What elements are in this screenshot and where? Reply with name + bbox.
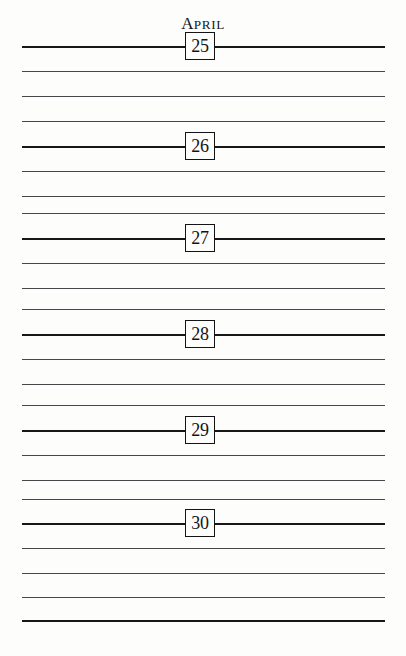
- ruled-line: [22, 213, 385, 214]
- ruled-line: [22, 499, 385, 500]
- date-box-label: 27: [191, 229, 209, 247]
- ruled-line: [22, 171, 385, 172]
- date-box-label: 26: [191, 137, 209, 155]
- date-box-label: 30: [191, 514, 209, 532]
- date-box-28[interactable]: 28: [185, 320, 215, 348]
- ruled-line: [22, 548, 385, 549]
- date-box-25[interactable]: 25: [185, 32, 215, 60]
- month-title-remainder: PRIL: [194, 17, 225, 32]
- diary-page: APRIL 252627282930: [0, 0, 406, 656]
- ruled-line: [22, 573, 385, 574]
- date-box-27[interactable]: 27: [185, 224, 215, 252]
- ruled-line: [22, 620, 385, 622]
- ruled-line: [22, 480, 385, 481]
- ruled-line: [22, 196, 385, 197]
- ruled-line: [22, 455, 385, 456]
- date-box-30[interactable]: 30: [185, 509, 215, 537]
- month-title-initial: A: [181, 14, 194, 33]
- date-box-label: 25: [191, 37, 209, 55]
- ruled-line: [22, 384, 385, 385]
- date-box-label: 29: [191, 421, 209, 439]
- ruled-line: [22, 263, 385, 264]
- date-box-29[interactable]: 29: [185, 416, 215, 444]
- ruled-line: [22, 288, 385, 289]
- ruled-line: [22, 71, 385, 72]
- ruled-line: [22, 121, 385, 122]
- ruled-line: [22, 405, 385, 406]
- date-box-label: 28: [191, 325, 209, 343]
- ruled-line: [22, 359, 385, 360]
- ruled-line: [22, 309, 385, 310]
- date-box-26[interactable]: 26: [185, 132, 215, 160]
- ruled-line: [22, 96, 385, 97]
- ruled-line: [22, 597, 385, 598]
